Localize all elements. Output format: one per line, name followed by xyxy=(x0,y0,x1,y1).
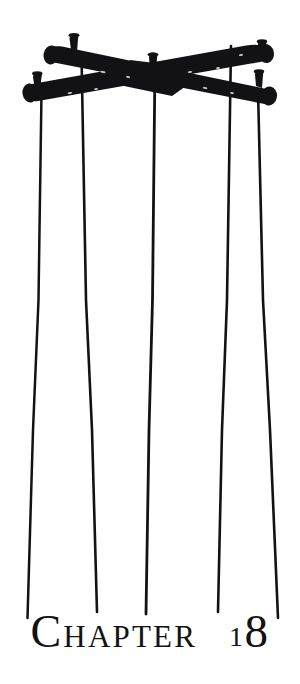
puppet-strings xyxy=(28,46,279,618)
chapter-number: 18 xyxy=(229,633,270,650)
string-5-line xyxy=(258,90,278,618)
chapter-opening-page: CHAPTER 18 xyxy=(0,0,300,684)
chapter-heading-line: CHAPTER 18 xyxy=(30,604,269,658)
chapter-number-digit-1: 1 xyxy=(229,621,245,652)
peg-right-lower-bar-head xyxy=(257,39,267,44)
marionette-control-cross-illustration xyxy=(0,0,300,684)
chapter-drop-cap: C xyxy=(30,606,63,657)
chapter-word: CHAPTER xyxy=(30,618,197,654)
chapter-heading: CHAPTER 18 xyxy=(0,604,300,660)
peg-right-upper-bar-head xyxy=(254,69,264,74)
peg-centre-head xyxy=(148,52,159,57)
control-cross-bars xyxy=(21,33,278,107)
peg-left-upper-bar-head xyxy=(69,33,80,38)
string-4-line xyxy=(218,46,231,612)
string-3-line xyxy=(146,62,155,614)
peg-left-lower-bar-head xyxy=(32,71,42,76)
chapter-number-digit-2: 8 xyxy=(245,605,270,657)
string-1-line xyxy=(28,92,42,618)
chapter-word-remainder: HAPTER xyxy=(63,619,197,654)
string-2-line xyxy=(82,55,98,612)
